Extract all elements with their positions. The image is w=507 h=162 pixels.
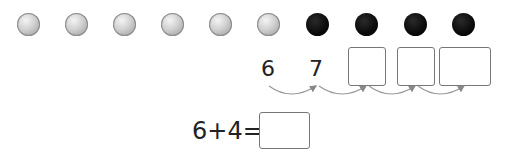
equation-answer-box[interactable]	[259, 112, 310, 149]
equation-expression: 6+4=	[192, 119, 263, 143]
